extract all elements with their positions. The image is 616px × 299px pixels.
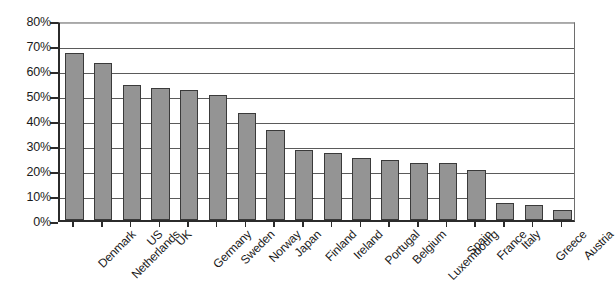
x-axis-tick [273,222,275,227]
bar-series [60,23,574,220]
x-axis-tick [388,222,390,227]
y-axis-tick [50,122,58,124]
bar [209,95,227,220]
bar [352,158,370,221]
bar [496,203,514,221]
bar [439,163,457,221]
y-axis-tick [50,197,58,199]
x-axis-tick [360,222,362,227]
bar [266,130,284,220]
y-axis-tick-label: 0% [1,216,51,228]
x-axis-category-label: Ireland [351,228,384,261]
x-axis-category-label: Finland [323,228,358,263]
x-axis-tick [446,222,448,227]
bar [381,160,399,220]
y-axis-tick [50,222,58,224]
x-axis-tick [245,222,247,227]
bar [94,63,112,221]
y-axis-tick [50,97,58,99]
bar [123,85,141,220]
y-axis-tick [50,72,58,74]
x-axis-tick [159,222,161,227]
bar [553,210,571,220]
x-axis-tick [101,222,103,227]
bar [525,205,543,220]
y-axis-tick [50,147,58,149]
y-axis-tick [50,172,58,174]
y-axis-tick-label: 10% [1,191,51,203]
bar [151,88,169,221]
y-axis-tick-label: 80% [1,16,51,28]
bar [410,163,428,221]
y-axis-tick [50,22,58,24]
bar [467,170,485,220]
x-axis-category-label: Denmark [96,228,138,270]
y-axis-tick-label: 70% [1,41,51,53]
bar [295,150,313,220]
x-axis-tick [130,222,132,227]
bar [324,153,342,221]
y-axis-label-group: 80%70%60%50%40%30%20%10%0% [0,0,54,299]
x-axis-tick [417,222,419,227]
x-axis-tick [474,222,476,227]
x-axis-category-label: Austria [581,228,615,262]
x-axis-tick [216,222,218,227]
x-axis-tick [72,222,74,227]
bar [238,113,256,221]
bar [180,90,198,220]
bar [65,53,83,221]
y-axis-tick [50,47,58,49]
x-axis-tick [302,222,304,227]
y-axis-tick-label: 50% [1,91,51,103]
y-axis-tick-label: 30% [1,141,51,153]
plot-area [58,22,575,222]
x-axis-tick [187,222,189,227]
y-axis-tick-label: 60% [1,66,51,78]
x-axis-category-label: Greece [553,228,588,263]
y-axis-tick-label: 40% [1,116,51,128]
y-axis-tick-label: 20% [1,166,51,178]
x-axis-tick [503,222,505,227]
x-axis-tick [561,222,563,227]
x-axis-label-group: DenmarkNetherlandsUSUKGermanySwedenNorwa… [58,228,588,299]
x-axis-tick [331,222,333,227]
